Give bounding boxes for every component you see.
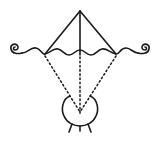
- dotted-rays: [45, 56, 116, 114]
- right-spiral-icon: [138, 44, 149, 53]
- diagram-drawing: [0, 0, 160, 141]
- diagram-canvas: [0, 0, 160, 141]
- cauldron-legs: [69, 124, 91, 132]
- left-spiral-icon: [11, 44, 22, 53]
